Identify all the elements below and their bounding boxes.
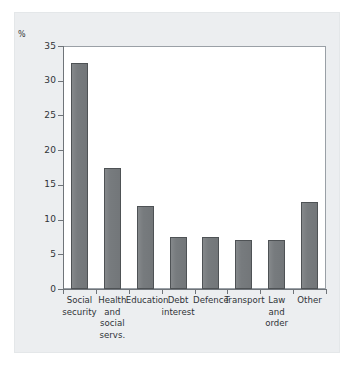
- y-tick-label: 25: [14, 111, 56, 120]
- y-tick-label: 20: [14, 146, 56, 155]
- y-tick-mark: [58, 46, 64, 47]
- x-tick-mark: [227, 289, 228, 294]
- bar: [301, 202, 318, 289]
- y-tick-label: 30: [14, 76, 56, 85]
- x-tick-mark: [63, 289, 64, 294]
- y-tick-mark: [58, 150, 64, 151]
- chart-figure: % 05101520253035 Social securityHealth a…: [0, 0, 354, 366]
- y-tick-mark: [58, 254, 64, 255]
- bar: [137, 206, 154, 289]
- y-tick-mark: [58, 115, 64, 116]
- y-tick-label: 5: [14, 250, 56, 259]
- bar: [268, 240, 285, 289]
- x-tick-mark: [326, 289, 327, 294]
- y-tick-mark: [58, 81, 64, 82]
- x-category-label: Other: [290, 295, 329, 307]
- y-tick-label: 35: [14, 42, 56, 51]
- y-tick-label: 0: [14, 285, 56, 294]
- x-tick-mark: [260, 289, 261, 294]
- x-tick-mark: [162, 289, 163, 294]
- x-tick-mark: [96, 289, 97, 294]
- x-tick-mark: [195, 289, 196, 294]
- y-tick-mark: [58, 185, 64, 186]
- plot-area: [63, 46, 326, 289]
- bar: [202, 237, 219, 289]
- y-tick-label: 10: [14, 215, 56, 224]
- bar: [235, 240, 252, 289]
- y-tick-label: 15: [14, 180, 56, 189]
- x-tick-mark: [129, 289, 130, 294]
- y-axis-tick-labels: 05101520253035: [8, 0, 56, 366]
- bar: [104, 168, 121, 290]
- bar: [170, 237, 187, 289]
- x-tick-mark: [293, 289, 294, 294]
- bar: [71, 63, 88, 289]
- y-tick-mark: [58, 220, 64, 221]
